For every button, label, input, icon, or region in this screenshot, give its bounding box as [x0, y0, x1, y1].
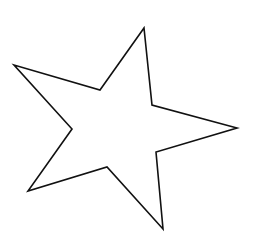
star-figure: [0, 0, 253, 234]
drawing-canvas: [0, 0, 253, 234]
star-outline: [14, 28, 237, 229]
